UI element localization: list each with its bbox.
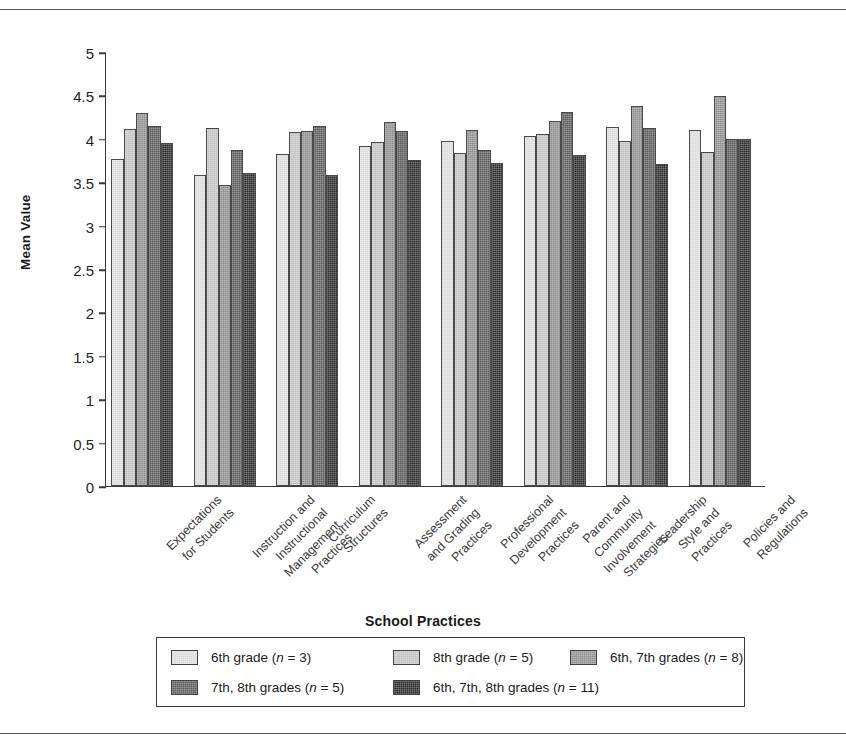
bar[interactable] [714, 96, 726, 486]
bar-group [519, 53, 602, 486]
legend-item[interactable]: 6th grade (n = 3) [171, 644, 311, 670]
legend-swatch-icon [393, 650, 420, 665]
bar-group [601, 53, 684, 486]
y-tick-mark [99, 226, 106, 228]
bar[interactable] [408, 160, 420, 486]
bar[interactable] [738, 139, 750, 486]
bar[interactable] [441, 141, 453, 486]
bar[interactable] [276, 154, 288, 486]
y-tick-label: 0.5 [73, 435, 94, 452]
legend-label: 8th grade (n = 5) [433, 650, 533, 665]
legend-swatch-icon [171, 650, 198, 665]
bar[interactable] [701, 152, 713, 486]
y-axis-title: Mean Value [18, 194, 33, 270]
bar[interactable] [606, 127, 618, 486]
bar[interactable] [466, 130, 478, 486]
bar[interactable] [301, 131, 313, 486]
bar[interactable] [326, 175, 338, 486]
legend-item[interactable]: 7th, 8th grades (n = 5) [171, 674, 344, 700]
bar[interactable] [619, 141, 631, 486]
bar[interactable] [643, 128, 655, 486]
x-category-label: LeadershipStyle andPractices [655, 492, 736, 573]
x-category-label: Assessmentand GradingPractices [410, 492, 496, 578]
bar[interactable] [194, 175, 206, 486]
bar-chart-figure: Mean Value 54.543.532.521.510.50 Expecta… [0, 0, 846, 751]
y-tick-mark [99, 52, 106, 54]
y-tick-label: 1.5 [73, 348, 94, 365]
bar[interactable] [313, 126, 325, 486]
bar[interactable] [206, 128, 218, 486]
legend-label: 6th, 7th grades (n = 8) [610, 650, 743, 665]
legend-swatch-icon [570, 650, 597, 665]
bar-group [189, 53, 272, 486]
y-tick-label: 2 [86, 305, 94, 322]
bar-groups [106, 53, 765, 486]
legend-swatch-icon [393, 680, 420, 695]
legend-item[interactable]: 6th, 7th grades (n = 8) [570, 644, 743, 670]
bar[interactable] [124, 129, 136, 486]
plot-area: 54.543.532.521.510.50 [105, 53, 765, 487]
bar[interactable] [454, 153, 466, 486]
legend-label: 6th grade (n = 3) [211, 650, 311, 665]
bar[interactable] [491, 163, 503, 486]
bar[interactable] [689, 130, 701, 486]
legend-swatch-icon [171, 680, 198, 695]
bar[interactable] [549, 121, 561, 486]
legend-row: 7th, 8th grades (n = 5)6th, 7th, 8th gra… [157, 674, 744, 700]
y-tick-label: 4.5 [73, 88, 94, 105]
bar-group [271, 53, 354, 486]
y-tick-mark [99, 96, 106, 98]
bar[interactable] [656, 164, 668, 486]
bar[interactable] [384, 122, 396, 486]
y-tick-label: 5 [86, 45, 94, 62]
bar[interactable] [359, 146, 371, 486]
bar[interactable] [243, 173, 255, 486]
x-category-label: Expectationsfor Students [163, 492, 239, 568]
bar[interactable] [231, 150, 243, 486]
bar[interactable] [631, 106, 643, 486]
bar[interactable] [536, 134, 548, 486]
y-tick-mark [99, 356, 106, 358]
y-tick-label: 1 [86, 392, 94, 409]
bar[interactable] [161, 143, 173, 486]
bar[interactable] [573, 155, 585, 486]
legend-item[interactable]: 8th grade (n = 5) [393, 644, 533, 670]
bar[interactable] [148, 126, 160, 486]
bar[interactable] [524, 136, 536, 486]
bar[interactable] [726, 139, 738, 486]
legend-item[interactable]: 6th, 7th, 8th grades (n = 11) [393, 674, 599, 700]
bar-group [684, 53, 767, 486]
bar[interactable] [478, 150, 490, 486]
chart-legend: 6th grade (n = 3)8th grade (n = 5)6th, 7… [156, 637, 745, 707]
y-tick-label: 2.5 [73, 262, 94, 279]
y-tick-label: 4 [86, 131, 94, 148]
y-tick-mark [99, 269, 106, 271]
bar[interactable] [289, 132, 301, 486]
x-category-label: ProfessionalDevelopmentPractices [494, 492, 584, 582]
bar[interactable] [561, 112, 573, 486]
y-tick-mark [99, 443, 106, 445]
bar-group [106, 53, 189, 486]
y-tick-mark [99, 399, 106, 401]
y-tick-mark [99, 313, 106, 315]
y-tick-label: 3.5 [73, 175, 94, 192]
legend-label: 7th, 8th grades (n = 5) [211, 680, 344, 695]
bar[interactable] [396, 131, 408, 486]
bar[interactable] [219, 185, 231, 486]
legend-label: 6th, 7th, 8th grades (n = 11) [433, 680, 599, 695]
bar-group [436, 53, 519, 486]
y-tick-mark [99, 486, 106, 488]
x-category-label: Policies andRegulations [739, 492, 812, 565]
y-tick-label: 0 [86, 479, 94, 496]
bar[interactable] [136, 113, 148, 486]
y-tick-mark [99, 139, 106, 141]
y-tick-mark [99, 182, 106, 184]
x-axis-title: School Practices [0, 613, 846, 629]
legend-row: 6th grade (n = 3)8th grade (n = 5)6th, 7… [157, 644, 744, 670]
y-tick-label: 3 [86, 218, 94, 235]
x-category-label: Parent andCommunityInvolvementStrategies [574, 492, 672, 590]
bar[interactable] [111, 159, 123, 486]
bar[interactable] [371, 142, 383, 486]
bar-group [354, 53, 437, 486]
